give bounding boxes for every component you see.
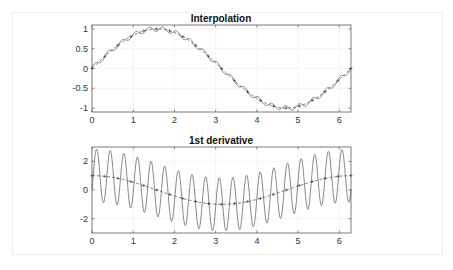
plus-marker — [116, 177, 119, 180]
plus-marker — [259, 99, 262, 102]
chart-canvas: 0123456-1-0.500.51 0123456-202 Interpola… — [0, 0, 453, 270]
y-tick-label: -2 — [80, 214, 88, 224]
plus-marker — [246, 200, 249, 203]
y-tick-label: 1 — [83, 24, 88, 34]
y-tick-label: 2 — [83, 156, 88, 166]
x-tick-label: 1 — [131, 115, 136, 125]
x-tick-label: 5 — [296, 236, 301, 246]
plus-marker — [155, 27, 158, 30]
x-tick-label: 4 — [254, 115, 259, 125]
plus-marker — [194, 200, 197, 203]
plus-marker — [155, 189, 158, 192]
y-tick-label: -1 — [80, 103, 88, 113]
plus-marker — [129, 180, 132, 183]
plus-marker — [285, 107, 288, 110]
x-tick-label: 4 — [254, 236, 259, 246]
interpolation-axes: 0123456-1-0.500.51 — [72, 24, 352, 125]
y-tick-label: 0 — [83, 64, 88, 74]
y-tick-label: 0.5 — [75, 44, 88, 54]
x-tick-label: 0 — [89, 236, 94, 246]
x-tick-label: 6 — [337, 115, 342, 125]
derivative-axes: 0123456-202 — [80, 147, 353, 246]
plus-marker — [259, 197, 262, 200]
x-tick-label: 1 — [131, 236, 136, 246]
y-tick-label: -0.5 — [72, 83, 88, 93]
plus-marker — [285, 188, 288, 191]
x-tick-label: 0 — [89, 115, 94, 125]
x-tick-label: 5 — [296, 115, 301, 125]
y-tick-label: 0 — [83, 185, 88, 195]
x-tick-label: 2 — [172, 236, 177, 246]
x-tick-label: 3 — [213, 115, 218, 125]
plus-marker — [168, 29, 171, 32]
plus-marker — [233, 202, 236, 205]
x-tick-label: 2 — [172, 115, 177, 125]
interpolation-title: Interpolation — [191, 13, 252, 24]
x-tick-label: 3 — [213, 236, 218, 246]
plus-marker — [103, 175, 106, 178]
plus-marker — [168, 193, 171, 196]
plus-marker — [272, 193, 275, 196]
plus-marker — [129, 35, 132, 38]
x-tick-label: 6 — [337, 236, 342, 246]
plus-marker — [324, 177, 327, 180]
plus-marker — [142, 184, 145, 187]
derivative-title: 1st derivative — [189, 135, 253, 146]
plus-marker — [207, 202, 210, 205]
